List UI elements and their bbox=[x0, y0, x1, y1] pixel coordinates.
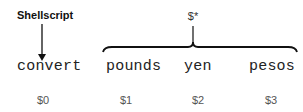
shellscript-label: Shellscript bbox=[17, 9, 73, 21]
word-pesos: pesos bbox=[249, 58, 295, 75]
var-2: $2 bbox=[192, 94, 204, 106]
word-yen: yen bbox=[184, 58, 212, 75]
word-pounds: pounds bbox=[106, 58, 161, 75]
var-1: $1 bbox=[120, 94, 132, 106]
all-args-label: $* bbox=[188, 10, 198, 22]
argument-brace bbox=[103, 42, 297, 52]
var-0: $0 bbox=[37, 94, 49, 106]
var-3: $3 bbox=[265, 94, 277, 106]
word-convert: convert bbox=[17, 58, 81, 75]
